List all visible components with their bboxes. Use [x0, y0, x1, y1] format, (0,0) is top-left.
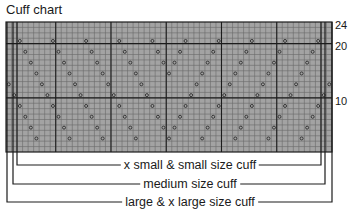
size-bracket-label: large & x large size cuff [122, 195, 258, 209]
row-label: 10 [335, 95, 347, 107]
row-label: 24 [335, 19, 347, 31]
size-bracket-label: x small & small size cuff [121, 158, 259, 172]
size-bracket-label: medium size cuff [140, 177, 240, 191]
row-label: 20 [335, 40, 347, 52]
